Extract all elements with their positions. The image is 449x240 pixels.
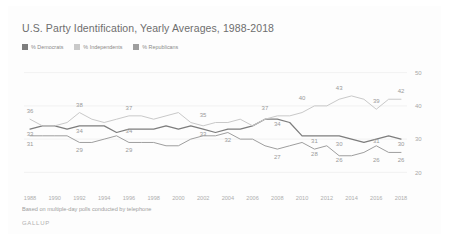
x-tick-label: 2010 bbox=[296, 195, 308, 201]
data-point-label: 26 bbox=[373, 157, 380, 163]
y-tick-label: 40 bbox=[415, 103, 422, 109]
data-point-label: 28 bbox=[311, 151, 318, 157]
legend-swatch-icon bbox=[74, 44, 80, 50]
data-point-label: 43 bbox=[336, 85, 343, 91]
x-axis: 1988199019921994199619982000200220042006… bbox=[8, 192, 441, 206]
chart-footnote: Based on multiple-day polls conducted by… bbox=[22, 206, 151, 212]
x-tick-label: 1992 bbox=[73, 195, 85, 201]
x-tick-label: 2004 bbox=[222, 195, 234, 201]
x-tick-label: 1990 bbox=[49, 195, 61, 201]
legend-swatch-icon bbox=[133, 44, 139, 50]
x-tick-label: 2012 bbox=[321, 195, 333, 201]
data-point-label: 26 bbox=[398, 157, 405, 163]
data-point-label: 32 bbox=[225, 137, 232, 143]
x-tick-label: 1996 bbox=[123, 195, 135, 201]
y-tick-label: 30 bbox=[415, 136, 422, 142]
data-point-label: 34 bbox=[274, 121, 281, 127]
data-point-label: 26 bbox=[336, 157, 343, 163]
series-line-3[interactable] bbox=[30, 132, 401, 155]
x-tick-label: 1988 bbox=[24, 195, 36, 201]
x-tick-label: 2018 bbox=[395, 195, 407, 201]
data-point-label: 37 bbox=[262, 105, 269, 111]
data-point-label: 29 bbox=[76, 147, 83, 153]
data-point-label: 35 bbox=[200, 112, 207, 118]
x-axis-ticks: 1988199019921994199619982000200220042006… bbox=[8, 192, 441, 206]
x-tick-label: 2006 bbox=[246, 195, 258, 201]
data-point-label: 34 bbox=[126, 128, 133, 134]
y-tick-label: 50 bbox=[415, 70, 422, 76]
chart-card: U.S. Party Identification, Yearly Averag… bbox=[8, 6, 441, 234]
data-point-label: 37 bbox=[126, 105, 133, 111]
brand-label: GALLUP bbox=[22, 220, 50, 226]
legend-swatch-icon bbox=[22, 44, 28, 50]
data-point-label: 38 bbox=[76, 102, 83, 108]
legend-item-2[interactable]: % Independents bbox=[74, 44, 122, 50]
data-point-label: 30 bbox=[336, 141, 343, 147]
data-point-label: 31 bbox=[27, 141, 34, 147]
data-point-label: 29 bbox=[126, 147, 133, 153]
y-tick-label: 20 bbox=[415, 170, 422, 176]
data-point-label: 40 bbox=[299, 95, 306, 101]
data-point-label: 33 bbox=[200, 131, 207, 137]
x-tick-label: 1994 bbox=[98, 195, 110, 201]
line-chart-svg: 5040302036333138342937342935333237342740… bbox=[8, 60, 441, 195]
series-line-2[interactable] bbox=[30, 96, 401, 126]
x-tick-label: 1998 bbox=[147, 195, 159, 201]
legend-item-3[interactable]: % Republicans bbox=[133, 44, 178, 50]
data-point-label: 33 bbox=[27, 131, 34, 137]
x-tick-label: 2008 bbox=[271, 195, 283, 201]
x-tick-label: 2000 bbox=[172, 195, 184, 201]
data-point-label: 30 bbox=[398, 141, 405, 147]
data-point-label: 31 bbox=[373, 138, 380, 144]
chart-legend: % Democrats% Independents% Republicans bbox=[22, 44, 178, 50]
legend-item-1[interactable]: % Democrats bbox=[22, 44, 63, 50]
legend-label: % Democrats bbox=[31, 44, 63, 50]
x-tick-label: 2016 bbox=[370, 195, 382, 201]
x-tick-label: 2014 bbox=[345, 195, 357, 201]
data-point-label: 31 bbox=[311, 138, 318, 144]
legend-label: % Independents bbox=[83, 44, 122, 50]
legend-label: % Republicans bbox=[142, 44, 178, 50]
x-tick-label: 2002 bbox=[197, 195, 209, 201]
data-point-label: 39 bbox=[373, 98, 380, 104]
data-point-label: 42 bbox=[398, 88, 405, 94]
chart-title: U.S. Party Identification, Yearly Averag… bbox=[22, 22, 274, 34]
data-point-label: 36 bbox=[27, 108, 34, 114]
plot-area: 5040302036333138342937342935333237342740… bbox=[8, 60, 441, 195]
data-point-label: 34 bbox=[76, 128, 83, 134]
data-point-label: 27 bbox=[274, 154, 281, 160]
